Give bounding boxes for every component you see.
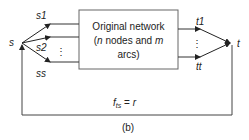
sink-ellipsis: ⋮ <box>192 38 202 49</box>
node-s-label: s <box>9 37 14 48</box>
node-ss-label: ss <box>36 68 46 79</box>
box-line-3: arcs) <box>117 49 139 60</box>
node-tt-label: tt <box>196 61 203 72</box>
box-line-2: (n nodes and m <box>94 35 164 46</box>
arc-tt-t <box>200 43 230 57</box>
figure-caption: (b) <box>122 122 134 133</box>
node-s2-label: s2 <box>36 42 47 53</box>
return-arc-label: fts = r <box>113 97 137 109</box>
network-diagram: Original network (n nodes and m arcs) s … <box>0 0 249 140</box>
node-t-label: t <box>237 38 241 49</box>
node-t1-label: t1 <box>196 16 204 27</box>
box-line-1: Original network <box>92 21 165 32</box>
node-s1-label: s1 <box>36 10 47 21</box>
arc-t1-t <box>200 29 230 43</box>
source-ellipsis: ⋮ <box>56 46 66 57</box>
